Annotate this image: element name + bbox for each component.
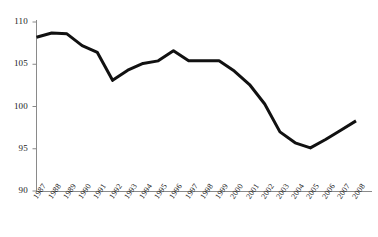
y-tick-label: 95 <box>4 144 28 153</box>
data-series-line <box>37 33 357 148</box>
axis-lines <box>37 20 373 192</box>
y-tick-label: 90 <box>4 186 28 195</box>
line-chart: 9095100105110 19871988198919901991199219… <box>0 0 378 237</box>
y-tick-marks <box>33 22 37 191</box>
y-tick-label: 100 <box>4 102 28 111</box>
chart-plot-area <box>0 0 378 237</box>
y-tick-label: 110 <box>4 17 28 26</box>
y-tick-label: 105 <box>4 59 28 68</box>
